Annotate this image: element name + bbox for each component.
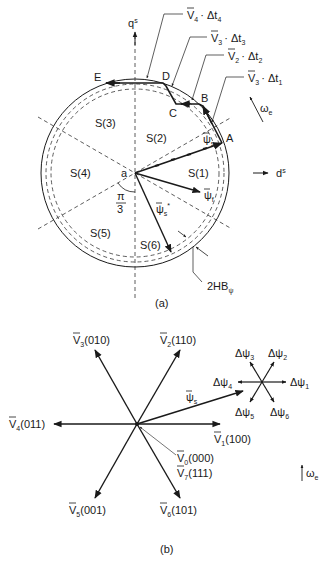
band-marker-outer	[196, 247, 208, 256]
delta-psi-star	[238, 362, 286, 402]
vector-label-v1: V1(100)	[214, 432, 251, 447]
vector-v6	[137, 424, 180, 498]
sector-label-6: S(6)	[140, 239, 161, 251]
delta-psi-5: Δψ5	[235, 406, 254, 420]
svg-text:V7(111): V7(111)	[177, 467, 212, 481]
delta-psi-1: Δψ1	[290, 376, 309, 390]
svg-text:V2(110): V2(110)	[160, 334, 196, 348]
svg-text:V0(000): V0(000)	[177, 452, 214, 466]
vector-label-v4: V4(011)	[9, 417, 45, 432]
svg-text:V4· Δt4: V4· Δt4	[187, 9, 221, 23]
delta-psi-2: Δψ2	[268, 347, 287, 361]
vector-v5	[95, 424, 137, 498]
figure-a: qs ds S(1) S(2) S(3) S(4) S(5) S(6) a π …	[38, 8, 286, 309]
sector-label-4: S(4)	[70, 167, 91, 179]
svg-text:V3(010): V3(010)	[73, 334, 110, 348]
svg-text:V6(101): V6(101)	[160, 504, 197, 518]
point-a-label: A	[226, 132, 234, 144]
svg-text:V3· Δt1: V3· Δt1	[248, 72, 282, 86]
band-leader	[193, 247, 202, 282]
svg-text:V2· Δt2: V2· Δt2	[228, 50, 262, 64]
angle-numerator: π	[117, 190, 125, 202]
delta-psi-3: Δψ3	[235, 347, 254, 361]
vector-label-v6: V6(101)	[160, 503, 197, 518]
trajectory-arrow-ab	[203, 106, 212, 124]
point-d-label: D	[162, 70, 170, 82]
origin-label: a	[121, 167, 128, 179]
psi-s-label-b: ψs	[186, 391, 198, 405]
sector-label-2: S(2)	[146, 132, 167, 144]
svg-text:V5(001): V5(001)	[69, 504, 106, 518]
vector-label-v0: V0(000)	[177, 451, 214, 466]
caption-a: (a)	[155, 297, 168, 309]
delta-psi-4: Δψ4	[213, 376, 232, 390]
q-axis-label: qs	[128, 17, 138, 29]
caption-b: (b)	[160, 543, 173, 555]
svg-text:V3· Δt3: V3· Δt3	[211, 32, 245, 46]
vector-label-v5: V5(001)	[69, 503, 106, 518]
psi-s-label: ψs	[203, 133, 215, 147]
vector-label-v7: V7(111)	[177, 466, 212, 481]
sector-label-1: S(1)	[188, 167, 209, 179]
band-marker-inner	[178, 231, 186, 237]
sector-label-5: S(5)	[90, 227, 111, 239]
zero-vector-pointer	[140, 427, 176, 455]
sector-label-3: S(3)	[95, 117, 116, 129]
psi-s-star-label: ψs*	[156, 202, 170, 217]
vector-label-v3: V3(010)	[73, 333, 110, 348]
delta-psi-6: Δψ6	[270, 406, 289, 420]
omega-label-b: ωe	[306, 467, 319, 481]
vector-v3	[95, 350, 137, 424]
point-e-label: E	[94, 71, 101, 83]
omega-label-a: ωe	[260, 102, 273, 116]
point-b-label: B	[201, 92, 208, 104]
d-axis-label: ds	[276, 167, 286, 179]
hysteresis-label: 2HBψ	[207, 280, 233, 295]
svg-text:V4(011): V4(011)	[9, 418, 45, 432]
psi-f-label: ψf	[204, 189, 214, 203]
svg-text:V1(100): V1(100)	[214, 433, 251, 447]
figure-root: qs ds S(1) S(2) S(3) S(4) S(5) S(6) a π …	[0, 0, 321, 567]
angle-denominator: 3	[117, 203, 123, 215]
figure-b: ψs V1(100) V2(110) V3(010) V4(011) V5(00…	[9, 333, 319, 555]
point-c-label: C	[169, 107, 177, 119]
vector-label-v2: V2(110)	[160, 333, 196, 348]
